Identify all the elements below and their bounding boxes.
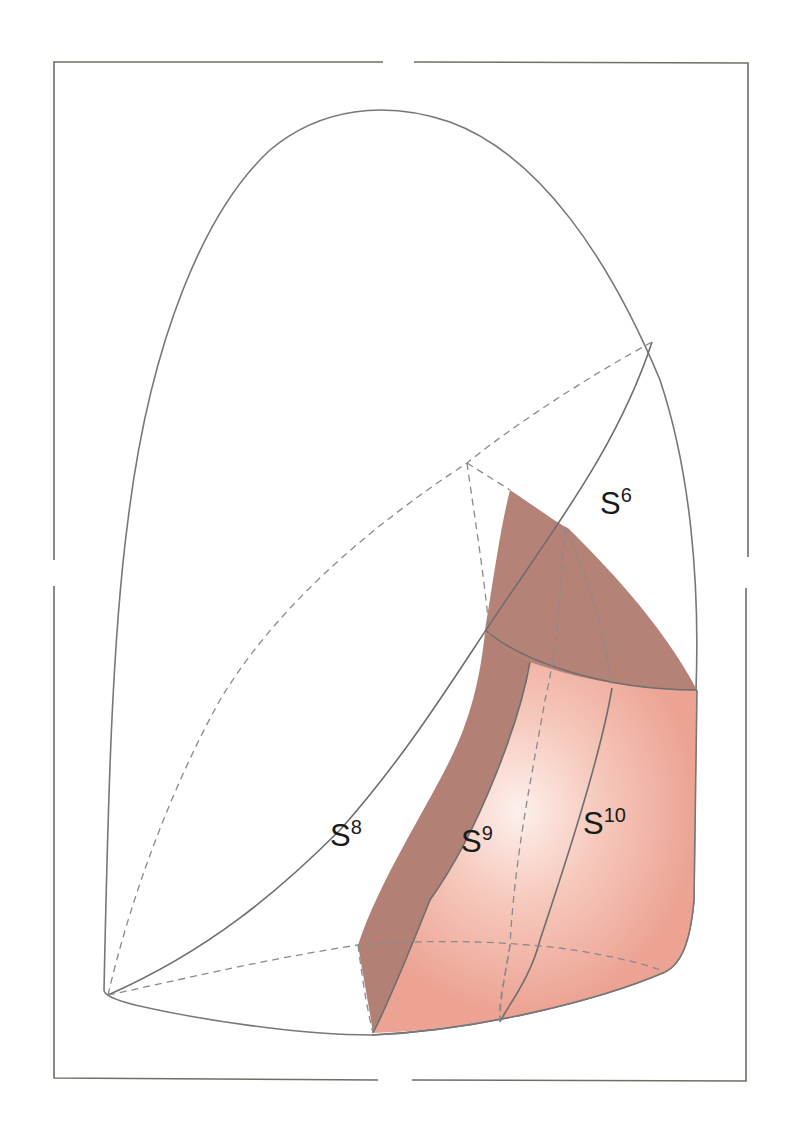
segment-label-s8-sup: 8 (351, 816, 362, 838)
segment-label-s6-sup: 6 (621, 484, 632, 506)
segment-label-s10-sup: 10 (604, 804, 626, 826)
segment-label-s6-base: S (600, 486, 621, 521)
segment-label-s8-base: S (330, 818, 351, 853)
segment-label-s9: S9 (461, 826, 493, 857)
segment-label-s9-sup: 9 (482, 822, 493, 844)
segment-label-s10: S10 (583, 808, 626, 839)
segment-label-s10-base: S (583, 806, 604, 841)
segment-label-s9-base: S (461, 824, 482, 859)
segment-label-s6: S6 (600, 488, 632, 519)
lung-segment-diagram (0, 0, 787, 1142)
segment-label-s8: S8 (330, 820, 362, 851)
